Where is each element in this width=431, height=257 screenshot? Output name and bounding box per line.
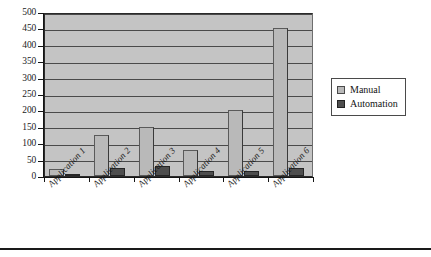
bar-manual-6 xyxy=(273,28,288,176)
x-axis-tick xyxy=(179,178,180,182)
y-axis-tick xyxy=(38,46,44,47)
horizontal-rule xyxy=(0,248,431,250)
y-axis-tick-label: 100 xyxy=(22,139,36,149)
gridline xyxy=(45,63,312,64)
gridline xyxy=(45,128,312,129)
gridline xyxy=(45,14,312,15)
gridline xyxy=(45,79,312,80)
legend-item-manual[interactable]: Manual xyxy=(337,83,398,97)
y-axis-tick-label: 50 xyxy=(27,156,36,166)
gridline xyxy=(45,112,312,113)
x-axis-tick xyxy=(134,178,135,182)
legend-swatch-icon xyxy=(337,100,345,108)
y-axis-tick-label: 0 xyxy=(31,172,36,182)
y-axis-tick xyxy=(38,13,44,14)
y-axis-tick xyxy=(38,128,44,129)
y-axis-tick xyxy=(38,29,44,30)
y-axis-tick-label: 250 xyxy=(22,90,36,100)
y-axis-tick-label: 400 xyxy=(22,41,36,51)
y-axis-tick xyxy=(38,144,44,145)
legend-item-automation[interactable]: Automation xyxy=(337,97,398,111)
gridline xyxy=(45,96,312,97)
y-axis-tick xyxy=(38,95,44,96)
y-axis-tick-label: 300 xyxy=(22,74,36,84)
legend-label: Automation xyxy=(350,99,398,109)
y-axis-tick xyxy=(38,161,44,162)
y-axis-tick-label: 200 xyxy=(22,106,36,116)
y-axis-tick xyxy=(38,62,44,63)
y-axis-tick-label: 500 xyxy=(22,8,36,18)
gridline xyxy=(45,161,312,162)
bar-automation-1 xyxy=(65,174,80,176)
chart-legend: ManualAutomation xyxy=(331,78,406,116)
gridline xyxy=(45,30,312,31)
x-axis-tick xyxy=(313,178,314,182)
y-axis-tick xyxy=(38,79,44,80)
y-axis-tick-label: 150 xyxy=(22,123,36,133)
bar-chart: 500450400350300250200150100500 ManualAut… xyxy=(0,0,431,257)
y-axis-tick xyxy=(38,111,44,112)
y-axis-tick-label: 350 xyxy=(22,57,36,67)
y-axis-labels: 500450400350300250200150100500 xyxy=(0,0,36,257)
gridline xyxy=(45,145,312,146)
legend-swatch-icon xyxy=(337,86,345,94)
y-axis-tick-label: 450 xyxy=(22,24,36,34)
gridline xyxy=(45,46,312,47)
legend-label: Manual xyxy=(350,85,381,95)
